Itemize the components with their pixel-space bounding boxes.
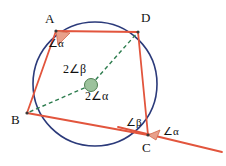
geometry-canvas: [0, 0, 226, 166]
radius-to-D: [91, 32, 138, 85]
vertex-label-C: C: [142, 141, 151, 154]
angle-label-beta-at-C: ∠β: [126, 117, 142, 128]
vertex-dot-B: [25, 111, 28, 114]
angle-marker-at-C: [148, 130, 160, 140]
vertex-dot-C: [146, 133, 149, 136]
radius-to-B: [27, 85, 91, 113]
vertex-dot-A: [54, 29, 57, 32]
geometry-figure: A D C B ∠α 2∠β 2∠α ∠β ∠α: [0, 0, 226, 166]
angle-label-alpha-at-C: ∠α: [163, 126, 179, 137]
vertex-label-A: A: [45, 12, 54, 25]
vertex-dot-D: [136, 30, 139, 33]
angle-label-2beta-at-center: 2∠β: [63, 63, 86, 75]
angle-label-2alpha-at-center: 2∠α: [85, 90, 108, 102]
vertex-label-B: B: [11, 113, 20, 126]
vertex-label-D: D: [141, 11, 150, 24]
angle-label-alpha-at-A: ∠α: [48, 38, 64, 49]
